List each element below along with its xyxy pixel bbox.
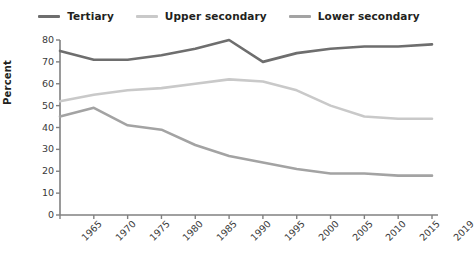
plot-svg — [60, 40, 438, 215]
y-tick-label: 10 — [28, 188, 54, 198]
x-tick-label: 1990 — [248, 218, 273, 243]
legend-swatch-icon — [289, 15, 311, 18]
x-tick-label: 2019 — [451, 218, 476, 243]
x-tick-label: 2005 — [350, 218, 375, 243]
y-tick-label: 40 — [28, 123, 54, 133]
x-tick-label: 2015 — [417, 218, 442, 243]
y-tick-label: 70 — [28, 57, 54, 67]
legend-label: Upper secondary — [165, 10, 267, 22]
y-tick-label: 50 — [28, 101, 54, 111]
legend-item-lower-secondary[interactable]: Lower secondary — [289, 10, 420, 22]
x-tick-label: 1975 — [147, 218, 172, 243]
series-line-tertiary — [60, 40, 432, 62]
x-tick-label: 1995 — [282, 218, 307, 243]
series-line-upper-secondary — [60, 79, 432, 118]
x-tick-label: 1985 — [214, 218, 239, 243]
y-tick-label: 20 — [28, 166, 54, 176]
legend-item-upper-secondary[interactable]: Upper secondary — [136, 10, 267, 22]
legend-swatch-icon — [38, 15, 60, 18]
chart-legend: Tertiary Upper secondary Lower secondary — [0, 10, 458, 22]
legend-swatch-icon — [136, 15, 158, 18]
y-tick-label: 80 — [28, 35, 54, 45]
legend-item-tertiary[interactable]: Tertiary — [38, 10, 114, 22]
legend-label: Tertiary — [67, 10, 114, 22]
legend-label: Lower secondary — [318, 10, 420, 22]
plot-area — [60, 40, 438, 215]
y-axis-tick-labels: 80706050403020100 — [26, 40, 54, 215]
x-tick-label: 1970 — [113, 218, 138, 243]
x-tick-label: 1965 — [79, 218, 104, 243]
x-tick-label: 2010 — [383, 218, 408, 243]
x-tick-label: 2000 — [316, 218, 341, 243]
y-tick-label: 30 — [28, 144, 54, 154]
x-tick-label: 1980 — [181, 218, 206, 243]
y-axis-title: Percent — [2, 60, 13, 105]
y-tick-label: 60 — [28, 79, 54, 89]
y-tick-label: 0 — [28, 210, 54, 220]
x-axis-tick-labels: 1965197019751980198519901995200020052010… — [60, 218, 438, 258]
